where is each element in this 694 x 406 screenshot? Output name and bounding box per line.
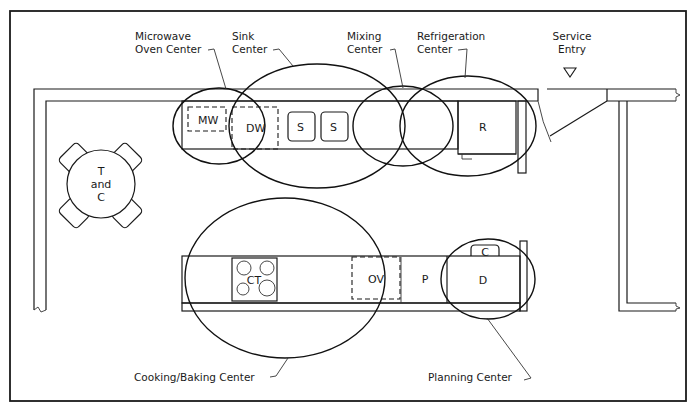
service-door xyxy=(538,89,607,142)
mixing-center-zone xyxy=(353,86,453,166)
cooking-center-zone xyxy=(185,198,385,358)
sink-left-label: S xyxy=(297,121,304,134)
oven-label: OV xyxy=(368,273,384,286)
sink-center-label-1: Sink xyxy=(232,30,255,42)
sink-right-label: S xyxy=(330,121,337,134)
microwave-label: MW xyxy=(198,114,218,127)
service-entry-label-1: Service xyxy=(553,30,592,42)
mixing-center-label-1: Mixing xyxy=(347,30,381,42)
dishwasher-label: DW xyxy=(246,122,265,135)
wall-right xyxy=(619,101,680,311)
table-label-and: and xyxy=(91,178,112,191)
service-entry-label-2: Entry xyxy=(558,43,586,55)
chair-label: C xyxy=(481,246,489,259)
cooktop: CT xyxy=(232,258,277,301)
pantry-label: P xyxy=(422,273,429,286)
cooking-center-label: Cooking/Baking Center xyxy=(134,371,255,383)
planning-center-label: Planning Center xyxy=(428,371,513,383)
mixing-center-label-2: Center xyxy=(347,43,383,55)
service-entry-icon xyxy=(564,68,576,77)
cooktop-label: CT xyxy=(247,274,262,287)
refrigeration-center-label-2: Center xyxy=(417,43,453,55)
microwave-center-label-1: Microwave xyxy=(135,30,191,42)
wall-top-right xyxy=(607,89,680,101)
sink-center-label-2: Center xyxy=(232,43,268,55)
microwave-center-label-2: Oven Center xyxy=(135,43,202,55)
desk-label: D xyxy=(479,274,487,287)
kitchen-floor-plan: MW DW S S R T and C CT OV P C D xyxy=(0,0,694,406)
table-and-chairs: T and C xyxy=(58,142,144,230)
refrigeration-center-label-1: Refrigeration xyxy=(417,30,485,42)
refrigerator-label: R xyxy=(479,121,487,134)
table-label-c: C xyxy=(97,191,105,204)
table-label-t: T xyxy=(97,165,105,178)
